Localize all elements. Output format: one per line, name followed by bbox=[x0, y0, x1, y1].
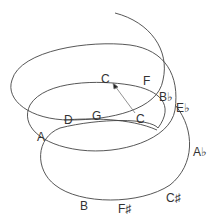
note-label-g: G bbox=[92, 110, 101, 122]
note-label-c-sharp: C♯ bbox=[166, 192, 181, 204]
note-label-a: A bbox=[37, 131, 45, 143]
note-label-c-top: C bbox=[101, 73, 110, 85]
note-label-c-mid: C bbox=[136, 113, 145, 125]
note-label-d: D bbox=[64, 114, 73, 126]
note-label-e-flat: E♭ bbox=[176, 102, 190, 114]
note-label-b-flat: B♭ bbox=[159, 91, 173, 103]
note-label-f: F bbox=[143, 75, 150, 87]
note-label-f-sharp: F♯ bbox=[118, 203, 131, 215]
spiral-of-fifths-diagram: C F B♭ E♭ D G C A A♭ C♯ B F♯ bbox=[0, 0, 220, 224]
note-label-b: B bbox=[80, 200, 88, 212]
note-label-a-flat: A♭ bbox=[193, 146, 207, 158]
arrow bbox=[113, 83, 135, 113]
